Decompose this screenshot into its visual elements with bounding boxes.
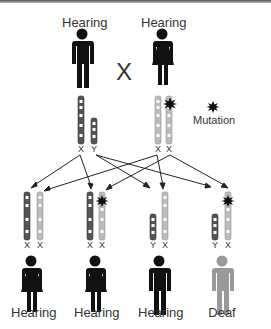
child-3-label: Hearing <box>138 305 178 320</box>
legend-mutation-label: Mutation <box>193 114 235 126</box>
child-1-chr-label-1: X <box>23 240 31 250</box>
child-1-label: Hearing <box>11 305 51 320</box>
mother-figure <box>152 29 174 86</box>
father-figure <box>72 29 94 89</box>
father-x-chromosome <box>78 96 84 144</box>
child-4-mutation-icon <box>222 195 235 207</box>
mutation-burst-icon <box>163 97 177 110</box>
child-4-label: Deaf <box>202 305 242 320</box>
father-label: Hearing <box>62 15 102 30</box>
child-1-chromosomes <box>24 192 43 240</box>
child-2-mutation-icon <box>96 195 109 207</box>
child-2-chr-label-2: X <box>98 240 106 250</box>
father-x-label: X <box>77 144 85 154</box>
inheritance-diagram <box>0 0 271 329</box>
mother-x1-label: X <box>154 144 162 154</box>
child-1-chr-label-2: X <box>36 240 44 250</box>
child-3-chromosomes <box>150 192 168 240</box>
child-3-chr-label-1: Y <box>149 240 157 250</box>
father-y-label: Y <box>90 144 98 154</box>
child-3-chr-label-2: X <box>161 240 169 250</box>
inheritance-arrows <box>31 155 228 191</box>
mother-label: Hearing <box>141 15 181 30</box>
child-1-female-figure <box>21 256 43 313</box>
child-2-label: Hearing <box>74 305 114 320</box>
cross-symbol: X <box>112 58 136 86</box>
child-4-chr-label-2: X <box>224 240 232 250</box>
legend-mutation-icon <box>207 101 220 113</box>
mother-x-chromosome-1 <box>155 96 161 144</box>
child-2-female-figure <box>85 256 107 313</box>
mother-x2-label: X <box>165 144 173 154</box>
child-2-chr-label-1: X <box>86 240 94 250</box>
father-y-chromosome <box>91 118 97 144</box>
child-4-chr-label-1: Y <box>211 240 219 250</box>
